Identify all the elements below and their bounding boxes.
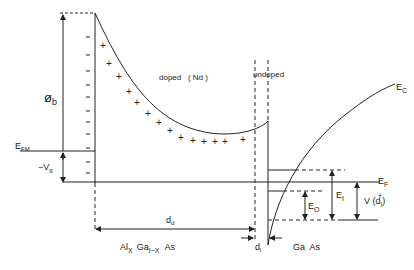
plus-sign: + [167, 125, 173, 136]
plus-sign: + [178, 132, 184, 143]
plus-sign: + [126, 86, 132, 97]
band-diagram-svg: + + + + + + + + + + + + + + øb EFM −Vg d… [0, 0, 414, 270]
plus-sign: + [100, 40, 106, 51]
positive-charges: + + + + + + + + + + + + + + [100, 40, 246, 147]
plus-sign: + [201, 136, 207, 147]
dd-label: dd [166, 215, 174, 226]
plus-sign: + [116, 71, 122, 82]
ec-gaas-curve [268, 84, 395, 245]
plus-sign: + [156, 117, 162, 128]
plus-sign: + [240, 134, 246, 145]
doped-label: doped ( Nd ) [159, 73, 208, 82]
plus-sign: + [222, 136, 228, 147]
algaas-label: AlXGaI−XAs [120, 242, 175, 254]
plus-sign: + [134, 97, 140, 108]
band-diagram: + + + + + + + + + + + + + + øb EFM −Vg d… [0, 0, 414, 270]
di-label: di [255, 242, 261, 253]
efm-label: EFM [15, 141, 30, 152]
gaas-label: Ga As [293, 242, 321, 252]
plus-sign: + [190, 135, 196, 146]
ec-label: EC [396, 82, 407, 94]
plus-sign: + [106, 58, 112, 69]
e1-label: EI [336, 190, 344, 202]
plus-sign: + [145, 108, 151, 119]
v-di-label: V (di+) [364, 192, 385, 208]
undoped-label: undoped [253, 70, 284, 79]
e0-label: EO [308, 201, 320, 213]
phi-b-label: øb [44, 90, 57, 107]
negative-charges [86, 37, 90, 173]
plus-sign: + [212, 136, 218, 147]
vg-label: −Vg [38, 162, 53, 173]
ef-label: EF [378, 176, 388, 188]
